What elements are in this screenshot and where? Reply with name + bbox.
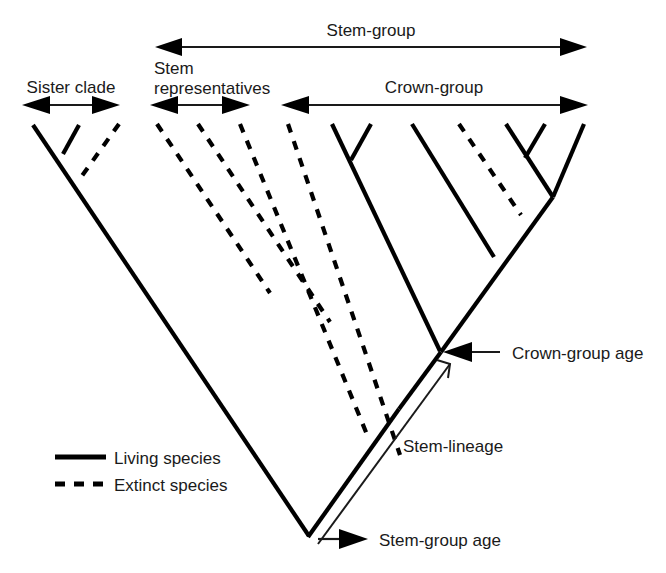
- cladogram-svg: Stem-group Sister clade Stem representat…: [0, 0, 666, 573]
- crown-extinct-branch: [459, 124, 521, 215]
- stem-group-age-arrowhead: [339, 529, 368, 549]
- crown-branch-a-sister: [351, 124, 371, 160]
- stem-group-age-callout: Stem-group age: [318, 529, 501, 550]
- stem-representative-branches: [157, 124, 368, 437]
- stem-representatives-label-line2: representatives: [154, 79, 270, 98]
- crown-group-tree: [288, 124, 584, 537]
- crown-group-right-arrowhead: [560, 96, 588, 114]
- figure-canvas: Stem-group Sister clade Stem representat…: [0, 0, 666, 573]
- stem-group-label: Stem-group: [327, 21, 416, 40]
- crown-branch-c-sister: [525, 124, 545, 158]
- crown-branch-b: [412, 124, 494, 257]
- stem-representatives-right-arrowhead: [222, 96, 250, 114]
- sister-clade-living-branch: [63, 125, 79, 154]
- crown-group-age-callout: Crown-group age: [443, 342, 643, 363]
- crown-group-age-label: Crown-group age: [512, 344, 643, 363]
- range-bar-sister-clade: Sister clade: [22, 78, 120, 114]
- stem-representatives-label-line1: Stem: [154, 59, 194, 78]
- crown-group-left-arrowhead: [281, 96, 309, 114]
- stem-lineage-label: Stem-lineage: [403, 437, 503, 456]
- stem-representatives-left-arrowhead: [150, 96, 178, 114]
- crown-group-label: Crown-group: [385, 78, 483, 97]
- sister-clade-main-branch: [33, 125, 309, 536]
- stem-group-age-label: Stem-group age: [379, 531, 501, 550]
- crown-node-to-stem: [399, 352, 441, 409]
- stem-lineage-bracket-top-tick: [437, 360, 450, 378]
- sister-clade-extinct-branch: [79, 124, 119, 180]
- legend: Living species Extinct species: [55, 449, 227, 495]
- stem-lineage-callout: Stem-lineage: [403, 437, 503, 456]
- range-bar-stem-group: Stem-group: [155, 21, 587, 56]
- stem-representative-branch-1: [157, 124, 270, 293]
- crown-branch-a: [332, 124, 440, 351]
- sister-clade-label: Sister clade: [27, 78, 116, 97]
- crown-stem-dashed-branch-4: [288, 124, 400, 455]
- legend-label-extinct: Extinct species: [114, 476, 227, 495]
- sister-clade-right-arrowhead: [92, 96, 120, 114]
- crown-branch-c: [506, 124, 553, 197]
- stem-lineage-branch: [308, 409, 399, 537]
- range-bar-stem-representatives: Stem representatives: [150, 59, 270, 114]
- stem-group-right-arrowhead: [560, 38, 587, 56]
- sister-clade-tree: [33, 124, 309, 536]
- sister-clade-left-arrowhead: [22, 96, 50, 114]
- crown-branch-d: [553, 124, 584, 197]
- stem-group-left-arrowhead: [155, 38, 182, 56]
- range-bar-crown-group: Crown-group: [281, 78, 588, 114]
- crown-internal-branch-right: [441, 197, 553, 352]
- legend-label-living: Living species: [114, 449, 221, 468]
